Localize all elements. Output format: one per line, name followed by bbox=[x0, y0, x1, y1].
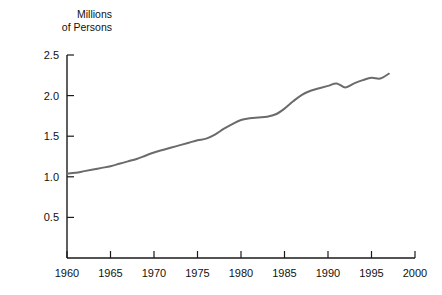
x-axis-tick-label: 1990 bbox=[308, 267, 348, 279]
y-axis-tick-label: 0.5 bbox=[29, 211, 59, 223]
data-series-line bbox=[67, 74, 389, 174]
y-axis-tick-label: 1.0 bbox=[29, 171, 59, 183]
x-axis-tick-label: 1970 bbox=[134, 267, 174, 279]
x-axis-tick-label: 1960 bbox=[47, 267, 87, 279]
x-axis-tick-label: 2000 bbox=[395, 267, 435, 279]
x-axis-tick-label: 1975 bbox=[178, 267, 218, 279]
y-axis-tick-label: 2.0 bbox=[29, 90, 59, 102]
x-axis-ticks bbox=[67, 251, 415, 258]
y-axis-ticks bbox=[67, 55, 74, 217]
chart-figure: Millions of Persons 0.51.01.52.02.5 1960… bbox=[0, 0, 442, 295]
y-axis-tick-label: 2.5 bbox=[29, 49, 59, 61]
y-axis-title: Millions of Persons bbox=[28, 8, 112, 33]
x-axis-tick-label: 1980 bbox=[221, 267, 261, 279]
x-axis-tick-label: 1965 bbox=[91, 267, 131, 279]
caption-sliver bbox=[0, 289, 442, 295]
x-axis-tick-label: 1985 bbox=[265, 267, 305, 279]
y-axis-tick-label: 1.5 bbox=[29, 130, 59, 142]
x-axis-tick-label: 1995 bbox=[352, 267, 392, 279]
chart-plot-area bbox=[0, 0, 442, 295]
